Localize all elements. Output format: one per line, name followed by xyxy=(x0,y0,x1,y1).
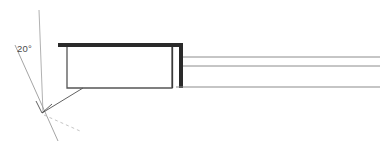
angle-dimension-label: 20° xyxy=(17,43,32,54)
technical-drawing-svg: 20° xyxy=(0,0,389,154)
cad-drawing-canvas: 20° xyxy=(0,0,389,154)
top-plate-bar xyxy=(58,43,183,47)
riser-vertical-bar xyxy=(179,45,183,88)
canvas-background xyxy=(0,0,389,154)
